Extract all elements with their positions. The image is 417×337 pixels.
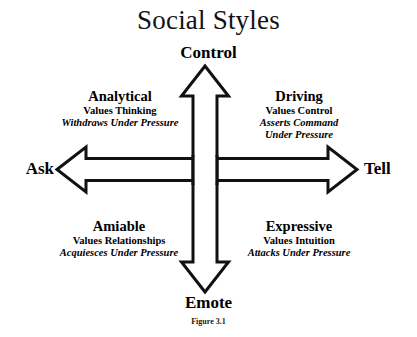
quadrant-pressure-line: Asserts Command: [228, 117, 370, 129]
axis-label-tell: Tell: [364, 159, 412, 178]
quadrant-pressure-line: Under Pressure: [228, 129, 370, 141]
quadrant-amiable: Amiable Values Relationships Acquiesces …: [46, 218, 192, 259]
quadrant-name: Expressive: [226, 218, 372, 234]
social-styles-figure: Social Styles Control Emote Ask Tell Ana…: [0, 0, 417, 337]
quadrant-name: Driving: [228, 88, 370, 104]
quadrant-pressure-line: Withdraws Under Pressure: [50, 117, 190, 129]
axis-label-emote: Emote: [0, 293, 417, 312]
quadrant-values-line: Values Control: [228, 105, 370, 117]
crossing-mask: [195, 157, 216, 183]
quadrant-pressure-line: Attacks Under Pressure: [226, 247, 372, 259]
quadrant-values-line: Values Thinking: [50, 105, 190, 117]
quadrant-analytical: Analytical Values Thinking Withdraws Und…: [50, 88, 190, 129]
quadrant-name: Amiable: [46, 218, 192, 234]
axis-label-ask: Ask: [8, 159, 54, 178]
quadrant-values-line: Values Intuition: [226, 235, 372, 247]
quadrant-name: Analytical: [50, 88, 190, 104]
quadrant-values-line: Values Relationships: [46, 235, 192, 247]
figure-caption: Figure 3.1: [0, 317, 417, 327]
quadrant-expressive: Expressive Values Intuition Attacks Unde…: [226, 218, 372, 259]
quadrant-pressure-line: Acquiesces Under Pressure: [46, 247, 192, 259]
axis-label-control: Control: [0, 43, 417, 62]
quadrant-driving: Driving Values Control Asserts Command U…: [228, 88, 370, 141]
